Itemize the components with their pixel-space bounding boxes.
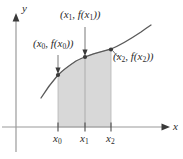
point-label-x1: (x1, f(x1)) <box>60 9 100 22</box>
y-axis-arrowhead <box>13 13 20 22</box>
point-label-x0-mid: , f(x <box>45 37 62 49</box>
point-label-x2-mid: , f(x <box>125 50 142 62</box>
x-tick-sub-x2: 2 <box>111 137 115 146</box>
point-label-x0: (x0, f(x0)) <box>33 38 73 51</box>
x-tick-sub-x0: 0 <box>58 137 62 146</box>
x-tick-label-x1: x1 <box>80 133 89 146</box>
point-label-x0-open: (x <box>33 37 42 49</box>
x-tick-label-x2: x2 <box>106 133 115 146</box>
point-label-x2-tail: )) <box>146 50 153 62</box>
x-tick-label-x0: x0 <box>53 133 62 146</box>
x-axis-arrowhead <box>162 124 171 131</box>
shaded-area-under-curve <box>58 49 111 127</box>
point-label-x2-open: (x <box>113 50 122 62</box>
function-area-graph <box>0 0 183 159</box>
point-label-x1-mid: , f(x <box>72 8 89 20</box>
annotation-arrowhead-x1 <box>82 50 87 57</box>
point-label-x0-tail: )) <box>66 37 73 49</box>
point-label-x1-open: (x <box>60 8 69 20</box>
x-axis-label: x <box>173 121 178 132</box>
point-label-x1-tail: )) <box>93 8 100 20</box>
x-tick-sub-x1: 1 <box>85 137 89 146</box>
y-axis-label: y <box>22 3 27 14</box>
point-label-x2: (x2, f(x2)) <box>113 51 153 64</box>
figure-container: y x x0 x1 x2 (x0, f(x0)) (x1, f(x1)) (x2… <box>0 0 183 159</box>
